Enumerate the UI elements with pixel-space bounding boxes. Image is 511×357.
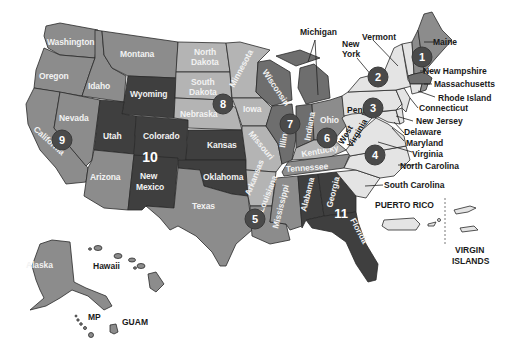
region-number: 8 xyxy=(220,98,226,110)
region-number: 2 xyxy=(375,71,381,83)
label-maine: Maine xyxy=(433,37,457,47)
label-virgin-islands-2: ISLANDS xyxy=(452,256,490,266)
label-virgin-islands-1: VIRGIN xyxy=(455,245,484,255)
label-alaska: Alaska xyxy=(26,260,53,270)
region-number: 3 xyxy=(370,102,376,114)
label-idaho: Idaho xyxy=(88,81,110,91)
label-washington: Washington xyxy=(47,37,94,47)
region-marker-1[interactable]: 1 xyxy=(412,47,432,67)
label-new-hampshire: New Hampshire xyxy=(423,66,487,76)
territory-virgin-islands[interactable] xyxy=(454,206,478,232)
label-montana: Montana xyxy=(120,49,155,59)
label-utah: Utah xyxy=(103,131,122,141)
label-delaware: Delaware xyxy=(404,127,442,137)
territory-guam[interactable] xyxy=(110,324,118,334)
label-colorado: Colorado xyxy=(143,131,180,141)
label-north-carolina: North Carolina xyxy=(400,161,459,171)
label-south-dakota-2: Dakota xyxy=(189,87,217,97)
region-number: 11 xyxy=(334,206,348,221)
region-number: 10 xyxy=(142,149,158,165)
label-nevada: Nevada xyxy=(59,113,89,123)
label-puerto-rico: PUERTO RICO xyxy=(375,200,434,210)
label-kansas: Kansas xyxy=(207,140,237,150)
region-marker-7[interactable]: 7 xyxy=(280,114,300,134)
label-hawaii: Hawaii xyxy=(93,261,120,271)
region-marker-8[interactable]: 8 xyxy=(213,94,233,114)
region-number: 4 xyxy=(372,149,379,161)
state-connecticut[interactable] xyxy=(410,84,422,94)
label-nebraska: Nebraska xyxy=(180,109,218,119)
label-tennessee: Tennessee xyxy=(285,161,328,174)
label-south-dakota-1: South xyxy=(191,77,215,87)
state-florida[interactable] xyxy=(306,212,378,282)
region-marker-6[interactable]: 6 xyxy=(317,128,337,148)
label-new-york-1: New xyxy=(342,39,360,49)
label-texas: Texas xyxy=(192,201,215,211)
label-guam: GUAM xyxy=(122,317,148,327)
label-new-mexico-2: Mexico xyxy=(136,182,164,192)
label-maryland: Maryland xyxy=(406,138,443,148)
label-vermont: Vermont xyxy=(362,32,396,42)
region-number: 5 xyxy=(252,213,258,225)
label-massachusetts: Massachusetts xyxy=(434,79,495,89)
label-arizona: Arizona xyxy=(90,172,121,182)
label-new-jersey: New Jersey xyxy=(416,116,463,126)
label-ohio: Ohio xyxy=(320,115,339,125)
region-marker-3[interactable]: 3 xyxy=(363,98,383,118)
region-number: 6 xyxy=(324,132,330,144)
label-oregon: Oregon xyxy=(39,71,69,81)
label-mp: MP xyxy=(88,312,101,322)
label-north-dakota-1: North xyxy=(194,47,216,57)
region-marker-9[interactable]: 9 xyxy=(52,130,72,150)
label-wyoming: Wyoming xyxy=(130,89,167,99)
label-south-carolina: South Carolina xyxy=(384,180,445,190)
region-marker-5[interactable]: 5 xyxy=(245,209,265,229)
region-number: 1 xyxy=(419,51,425,63)
region-marker-4[interactable]: 4 xyxy=(365,145,385,165)
region-number: 9 xyxy=(59,134,65,146)
label-oklahoma: Oklahoma xyxy=(203,172,244,182)
us-regions-map: Washington Oregon Idaho Montana Nevada C… xyxy=(0,0,511,357)
label-iowa: Iowa xyxy=(243,104,262,114)
label-connecticut: Connecticut xyxy=(419,103,468,113)
region-marker-11[interactable]: 11 xyxy=(334,206,348,221)
region-marker-10[interactable]: 10 xyxy=(142,149,158,165)
label-rhode-island: Rhode Island xyxy=(438,93,491,103)
label-new-mexico-1: New xyxy=(140,171,158,181)
label-new-york-2: York xyxy=(342,49,361,59)
label-virginia: Virginia xyxy=(412,149,443,159)
region-marker-2[interactable]: 2 xyxy=(368,67,388,87)
label-north-dakota-2: Dakota xyxy=(191,57,219,67)
label-michigan: Michigan xyxy=(300,27,337,37)
territory-puerto-rico[interactable] xyxy=(382,218,441,230)
region-number: 7 xyxy=(287,118,293,130)
